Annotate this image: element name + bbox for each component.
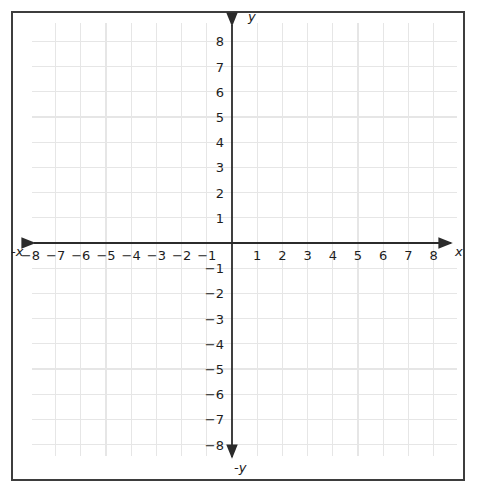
y-axis-label: y — [248, 10, 256, 23]
x-tick-label: 8 — [419, 249, 449, 262]
y-tick-label: −5 — [192, 363, 224, 376]
y-tick-label: −7 — [192, 413, 224, 426]
y-tick-label: 2 — [192, 187, 224, 200]
y-tick-label: −4 — [192, 338, 224, 351]
y-tick-label: 3 — [192, 161, 224, 174]
y-tick-label: −6 — [192, 388, 224, 401]
y-tick-label: 1 — [192, 212, 224, 225]
y-tick-label: 6 — [192, 86, 224, 99]
negative-x-axis-label: -x — [11, 245, 23, 258]
y-tick-label: 5 — [192, 111, 224, 124]
negative-y-axis-label: -y — [234, 461, 246, 474]
coordinate-plane-page: −8−7−6−5−4−3−2−112345678 87654321−1−2−3−… — [0, 0, 479, 492]
y-tick-label: 4 — [192, 136, 224, 149]
y-tick-label: 8 — [192, 35, 224, 48]
vertical-gridlines — [56, 23, 434, 456]
x-tick-label: −1 — [192, 249, 222, 262]
y-tick-label: 7 — [192, 61, 224, 74]
coordinate-grid-svg — [0, 0, 479, 492]
y-tick-label: −3 — [192, 313, 224, 326]
x-axis-label: x — [455, 245, 463, 258]
y-tick-label: −8 — [192, 439, 224, 452]
y-tick-label: −2 — [192, 287, 224, 300]
y-tick-label: −1 — [192, 262, 224, 275]
